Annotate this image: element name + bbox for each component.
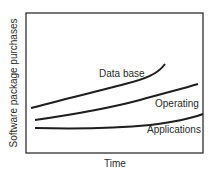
x-axis-label: Time — [104, 158, 126, 169]
y-axis-label: Software package purchases — [8, 19, 19, 148]
series-label-applications: Applications — [147, 124, 201, 135]
series-label-database: Data base — [99, 68, 145, 79]
series-line-database — [31, 64, 165, 108]
line-chart: Data base Operating Applications Time So… — [0, 0, 215, 172]
series-label-operating: Operating — [155, 98, 199, 109]
